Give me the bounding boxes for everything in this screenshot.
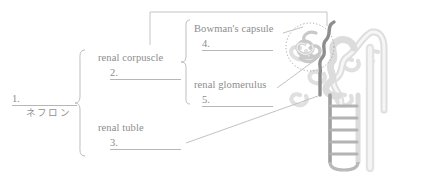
blank-4-rule[interactable]: [211, 38, 273, 51]
blank-5-rule[interactable]: [211, 94, 273, 107]
root-term-caption: ネフロン: [26, 108, 71, 118]
blank-1[interactable]: 1.: [12, 93, 77, 106]
blank-5[interactable]: 5.: [202, 94, 273, 107]
group-label-renal-tuble: renal tuble: [98, 122, 144, 133]
subgroup-label-bowmans-capsule: Bowman's capsule: [194, 23, 274, 34]
blank-1-number: 1.: [12, 94, 21, 107]
blank-2-number: 2.: [110, 68, 119, 81]
blank-2[interactable]: 2.: [110, 67, 181, 80]
group-label-renal-corpuscle: renal corpuscle: [98, 52, 163, 63]
blank-5-number: 5.: [202, 95, 211, 108]
worksheet-sheet: 1. ネフロン renal corpuscle 2. renal tuble 3…: [0, 0, 433, 172]
blank-4-number: 4.: [202, 39, 211, 52]
renal-glomerulus-leader: [277, 55, 322, 88]
blank-2-rule[interactable]: [119, 67, 181, 80]
blank-3-rule[interactable]: [119, 137, 181, 150]
bowmans-capsule-leader: [283, 27, 303, 33]
blank-4[interactable]: 4.: [202, 38, 273, 51]
inner-brace: [181, 20, 190, 104]
subgroup-label-renal-glomerulus: renal glomerulus: [194, 79, 266, 90]
blank-1-rule[interactable]: [21, 93, 77, 106]
blank-3-number: 3.: [110, 138, 119, 151]
blank-3[interactable]: 3.: [110, 137, 181, 150]
